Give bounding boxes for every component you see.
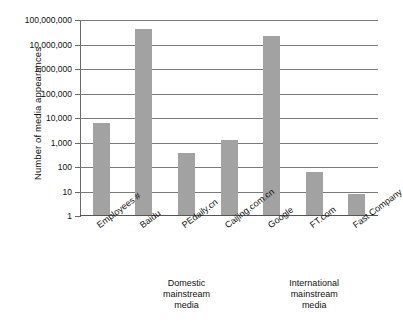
y-tick-label: 100,000,000	[0, 16, 72, 25]
y-tick-mark	[75, 69, 80, 70]
y-tick-label: 1,000	[0, 139, 72, 148]
y-tick-mark	[75, 20, 80, 21]
y-tick-label: 1	[0, 212, 72, 221]
y-tick-mark	[75, 143, 80, 144]
y-tick-label: 10,000	[0, 114, 72, 123]
plot-area: 100,000,00010,000,0001,000,000100,00010,…	[80, 20, 378, 216]
y-tick-label: 10	[0, 188, 72, 197]
gridline	[80, 69, 378, 70]
bar	[135, 29, 152, 216]
y-tick-mark	[75, 94, 80, 95]
bar	[221, 140, 238, 216]
y-tick-label: 10,000,000	[0, 41, 72, 50]
y-tick-label: 1,000,000	[0, 65, 72, 74]
gridline	[80, 20, 378, 21]
domestic-mainstream-media: Domestic mainstream media	[141, 278, 231, 311]
gridline	[80, 94, 378, 95]
y-tick-label: 100,000	[0, 90, 72, 99]
y-tick-label: 100	[0, 163, 72, 172]
bar	[178, 153, 195, 216]
bar	[306, 172, 323, 216]
gridline	[80, 118, 378, 119]
y-tick-mark	[75, 192, 80, 193]
y-tick-mark	[75, 118, 80, 119]
international-mainstream-media: International mainstream media	[269, 278, 359, 311]
bar	[93, 123, 110, 216]
y-tick-mark	[75, 45, 80, 46]
y-tick-mark	[75, 216, 80, 217]
gridline	[80, 45, 378, 46]
y-tick-mark	[75, 167, 80, 168]
